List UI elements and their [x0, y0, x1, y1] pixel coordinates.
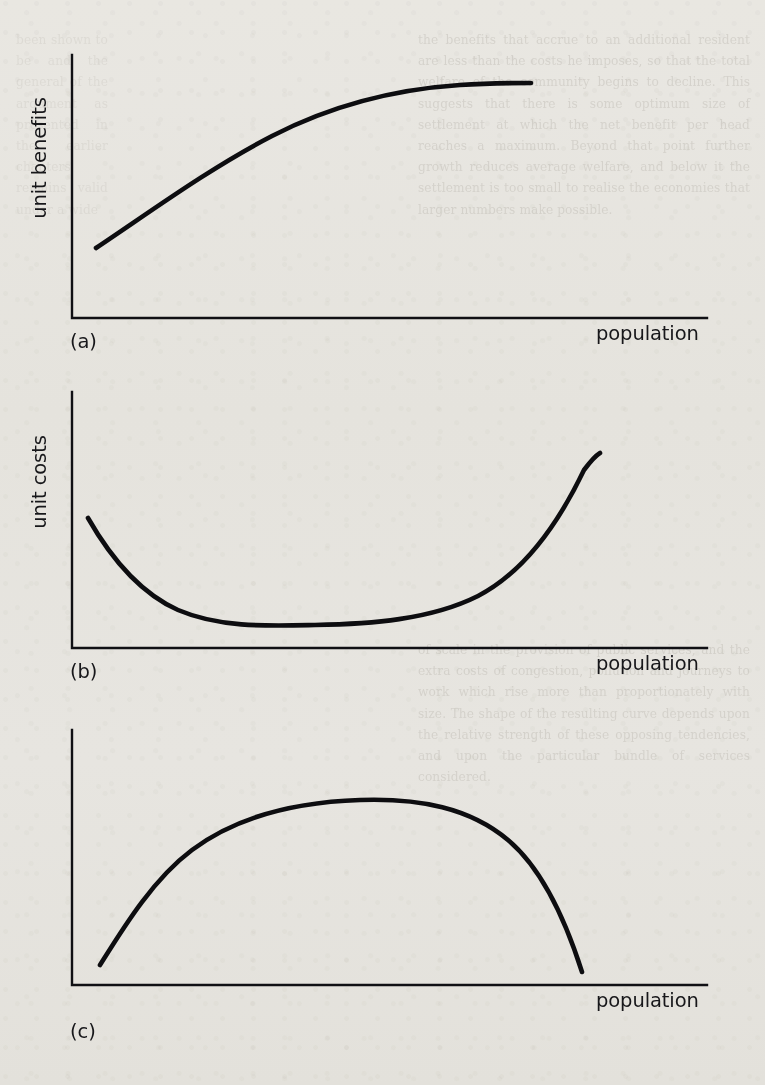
figure-c-canvas	[0, 0, 765, 1085]
x-axis-label-c: population	[596, 989, 699, 1012]
axes-c	[72, 730, 707, 985]
scanned-figure-page: the benefits that accrue to an additiona…	[0, 0, 765, 1085]
curve-net-benefit	[100, 800, 582, 972]
panel-tag-c: (c)	[70, 1020, 96, 1043]
